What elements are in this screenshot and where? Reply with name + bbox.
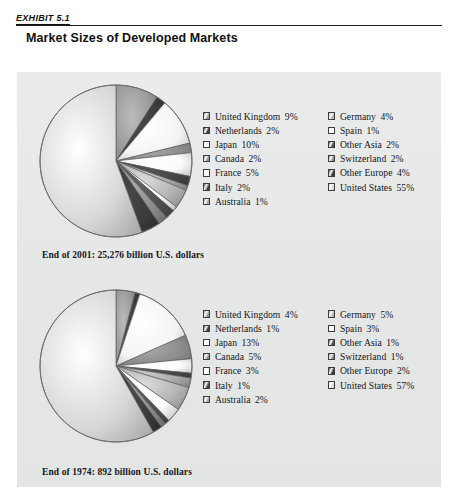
legend-column-left: United Kingdom4%Netherlands1%Japan13%Can…	[203, 307, 328, 406]
chart-caption-2001: End of 2001: 25,276 billion U.S. dollars	[42, 250, 204, 260]
legend-swatch-icon	[203, 339, 210, 346]
legend-percent: 3%	[367, 323, 380, 334]
legend-item: Canada5%	[203, 350, 328, 364]
legend-swatch-icon	[328, 310, 335, 317]
legend-label: Other Europe	[340, 167, 393, 178]
legend-label: Japan	[215, 337, 237, 348]
legend-swatch-icon	[203, 381, 210, 388]
legend-label: Spain	[340, 125, 362, 136]
legend-label: Italy	[215, 380, 233, 391]
legend-column-right: Germany4%Spain1%Other Asia2%Switzerland2…	[328, 109, 448, 208]
legend-percent: 5%	[380, 309, 393, 320]
legend-item: Germany5%	[328, 307, 448, 321]
legend-label: Canada	[215, 351, 244, 362]
legend-label: Italy	[215, 182, 233, 193]
legend-item: United States55%	[328, 180, 448, 194]
legend-label: France	[215, 167, 241, 178]
legend-label: United Kingdom	[215, 111, 280, 122]
legend-percent: 1%	[391, 351, 404, 362]
legend-percent: 3%	[246, 365, 259, 376]
legend-percent: 1%	[367, 125, 380, 136]
legend-item: Spain1%	[328, 123, 448, 137]
legend-item: France3%	[203, 364, 328, 378]
legend-percent: 2%	[266, 125, 279, 136]
legend-item: Canada2%	[203, 152, 328, 166]
legend-item: Germany4%	[328, 109, 448, 123]
legend-swatch-icon	[203, 183, 210, 190]
chart-block-1974: End of 1974: 892 billion U.S. dollars Un…	[17, 282, 441, 487]
legend-label: Switzerland	[340, 351, 386, 362]
legend-swatch-icon	[328, 381, 335, 388]
legend-swatch-icon	[203, 169, 210, 176]
legend-percent: 9%	[285, 111, 298, 122]
legend-label: Other Europe	[340, 365, 393, 376]
legend-1974: United Kingdom4%Netherlands1%Japan13%Can…	[203, 307, 448, 406]
legend-item: Other Europe4%	[328, 166, 448, 180]
legend-item: Australia2%	[203, 392, 328, 406]
legend-swatch-icon	[328, 353, 335, 360]
legend-item: Netherlands1%	[203, 321, 328, 335]
legend-percent: 4%	[285, 309, 298, 320]
legend-percent: 2%	[255, 394, 268, 405]
exhibit-panel: End of 2001: 25,276 billion U.S. dollars…	[17, 72, 441, 487]
legend-2001: United Kingdom9%Netherlands2%Japan10%Can…	[203, 109, 448, 208]
legend-item: Switzerland1%	[328, 350, 448, 364]
legend-percent: 2%	[248, 153, 261, 164]
legend-percent: 4%	[397, 167, 410, 178]
legend-percent: 1%	[266, 323, 279, 334]
legend-swatch-icon	[203, 112, 210, 119]
legend-label: Netherlands	[215, 125, 262, 136]
legend-item: Switzerland2%	[328, 152, 448, 166]
legend-swatch-icon	[328, 112, 335, 119]
legend-swatch-icon	[203, 310, 210, 317]
legend-swatch-icon	[328, 339, 335, 346]
legend-percent: 13%	[241, 337, 259, 348]
legend-swatch-icon	[203, 127, 210, 134]
legend-label: Japan	[215, 139, 237, 150]
header-divider	[16, 25, 442, 26]
legend-label: Canada	[215, 153, 244, 164]
legend-item: United Kingdom9%	[203, 109, 328, 123]
legend-label: Other Asia	[340, 139, 382, 150]
legend-label: Other Asia	[340, 337, 382, 348]
legend-percent: 5%	[248, 351, 261, 362]
legend-percent: 2%	[386, 139, 399, 150]
legend-label: France	[215, 365, 241, 376]
legend-label: Spain	[340, 323, 362, 334]
legend-percent: 1%	[237, 380, 250, 391]
legend-item: Other Asia2%	[328, 137, 448, 151]
legend-percent: 2%	[237, 182, 250, 193]
legend-item: United Kingdom4%	[203, 307, 328, 321]
legend-item: United States57%	[328, 378, 448, 392]
legend-label: Australia	[215, 196, 251, 207]
legend-label: Germany	[340, 309, 376, 320]
legend-label: United Kingdom	[215, 309, 280, 320]
legend-item: Italy1%	[203, 378, 328, 392]
legend-swatch-icon	[203, 198, 210, 205]
pie-svg	[36, 81, 196, 241]
legend-item: Japan13%	[203, 335, 328, 349]
legend-label: Switzerland	[340, 153, 386, 164]
legend-percent: 1%	[255, 196, 268, 207]
legend-percent: 55%	[396, 182, 414, 193]
pie-chart-2001	[36, 81, 196, 241]
legend-swatch-icon	[203, 396, 210, 403]
legend-swatch-icon	[328, 127, 335, 134]
chart-block-2001: End of 2001: 25,276 billion U.S. dollars…	[17, 77, 441, 277]
pie-svg	[36, 286, 196, 446]
legend-swatch-icon	[328, 169, 335, 176]
exhibit-label: EXHIBIT 5.1	[16, 13, 70, 25]
legend-item: Other Europe2%	[328, 364, 448, 378]
legend-swatch-icon	[328, 367, 335, 374]
legend-label: Netherlands	[215, 323, 262, 334]
legend-swatch-icon	[203, 155, 210, 162]
legend-label: Australia	[215, 394, 251, 405]
legend-swatch-icon	[203, 325, 210, 332]
legend-swatch-icon	[328, 183, 335, 190]
page-title: Market Sizes of Developed Markets	[26, 31, 238, 45]
legend-item: Spain3%	[328, 321, 448, 335]
legend-item: Italy2%	[203, 180, 328, 194]
legend-swatch-icon	[203, 353, 210, 360]
legend-percent: 2%	[391, 153, 404, 164]
legend-item: Other Asia1%	[328, 335, 448, 349]
